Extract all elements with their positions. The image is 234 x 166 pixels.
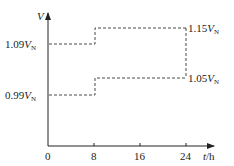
y-axis-label: V — [37, 10, 45, 22]
x-tick-label-16: 16 — [134, 150, 146, 162]
label-1-05vn: 1.05VN — [188, 72, 219, 86]
x-tick-label-24: 24 — [180, 150, 192, 162]
voltage-step-chart: V 1.09VN 0.99VN 1.15VN 1.05VN 0 8 16 24 … — [0, 0, 234, 166]
x-axis-label: t/h — [203, 150, 215, 162]
upper-limit-series — [49, 28, 186, 44]
label-1-15vn: 1.15VN — [188, 22, 219, 36]
label-1-09vn: 1.09VN — [5, 38, 36, 52]
x-tick-label-0: 0 — [45, 150, 51, 162]
x-tick-label-8: 8 — [91, 150, 97, 162]
lower-limit-series — [49, 78, 186, 95]
label-0-99vn: 0.99VN — [5, 89, 36, 103]
